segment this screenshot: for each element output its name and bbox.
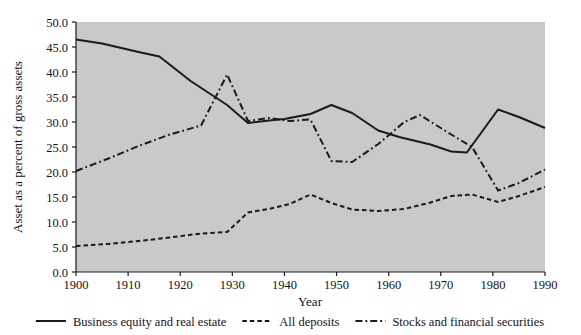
y-tick-label: 20.0 — [46, 166, 68, 180]
chart-legend: Business equity and real estateAll depos… — [36, 315, 544, 329]
y-tick-label: 25.0 — [46, 141, 68, 155]
plot-area-background — [76, 22, 545, 272]
x-tick-label: 1920 — [168, 278, 193, 292]
y-tick-label: 50.0 — [46, 16, 68, 30]
x-axis-tick-labels: 1900191019201930194019501960197019801990 — [64, 278, 558, 292]
x-tick-label: 1930 — [220, 278, 245, 292]
chart-figure: 0.05.010.015.020.025.030.035.040.045.050… — [0, 0, 581, 335]
legend-label: Business equity and real estate — [73, 315, 227, 329]
x-tick-label: 1950 — [324, 278, 349, 292]
y-tick-label: 30.0 — [46, 116, 68, 130]
x-axis-title: Year — [298, 294, 323, 309]
y-tick-label: 10.0 — [46, 216, 68, 230]
y-tick-label: 15.0 — [46, 191, 68, 205]
y-tick-label: 45.0 — [46, 41, 68, 55]
x-tick-label: 1940 — [272, 278, 297, 292]
y-axis-tick-labels: 0.05.010.015.020.025.030.035.040.045.050… — [46, 16, 68, 280]
y-tick-label: 35.0 — [46, 91, 68, 105]
x-tick-label: 1900 — [64, 278, 89, 292]
legend-label: All deposits — [279, 315, 339, 329]
y-axis-title: Asset as a percent of gross assets — [10, 61, 25, 233]
x-tick-label: 1960 — [376, 278, 401, 292]
x-tick-label: 1910 — [116, 278, 141, 292]
y-tick-label: 5.0 — [52, 241, 68, 255]
x-tick-label: 1980 — [480, 278, 505, 292]
legend-label: Stocks and financial securities — [392, 315, 544, 329]
x-tick-label: 1990 — [533, 278, 558, 292]
x-tick-label: 1970 — [428, 278, 453, 292]
y-tick-label: 40.0 — [46, 66, 68, 80]
line-chart: 0.05.010.015.020.025.030.035.040.045.050… — [0, 0, 581, 335]
